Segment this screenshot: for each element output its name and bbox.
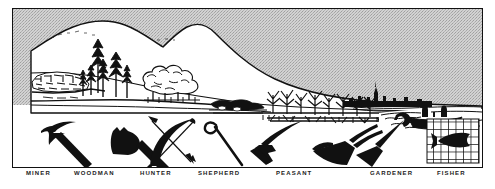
illustration-frame <box>12 8 483 168</box>
bow-and-arrow-icon <box>147 116 196 167</box>
caption-row: MINER WOODMAN HUNTER SHEPHERD PEASANT GA… <box>12 170 483 184</box>
fish-in-net-icon <box>427 119 479 163</box>
shepherds-crook-icon <box>205 123 242 165</box>
occupations-plate: MINER WOODMAN HUNTER SHEPHERD PEASANT GA… <box>0 0 495 189</box>
scythe-icon <box>250 121 302 165</box>
caption-peasant: PEASANT <box>276 170 312 176</box>
fisherman <box>422 105 428 117</box>
caption-gardener: GARDENER <box>370 170 413 176</box>
caption-woodman: WOODMAN <box>74 170 115 176</box>
fisherman <box>441 105 447 117</box>
landscape-and-tools-scene <box>13 9 482 167</box>
caption-fisher: FISHER <box>437 170 466 176</box>
caption-hunter: HUNTER <box>140 170 172 176</box>
caption-shepherd: SHEPHERD <box>198 170 240 176</box>
pickaxe-icon <box>41 121 92 167</box>
caption-miner: MINER <box>26 170 51 176</box>
